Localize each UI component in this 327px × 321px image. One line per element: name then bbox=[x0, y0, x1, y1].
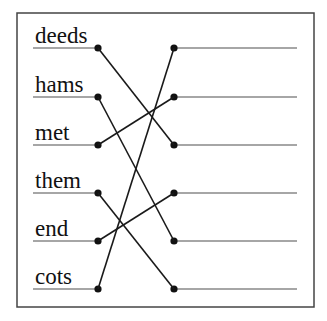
matching-diagram: deedshamsmetthemendcots bbox=[0, 0, 327, 321]
connector-line-end bbox=[98, 193, 174, 241]
connector-line-deeds bbox=[98, 48, 174, 145]
connectors bbox=[98, 48, 174, 289]
word-label-cots: cots bbox=[35, 264, 72, 289]
connector-line-met bbox=[98, 97, 174, 145]
frame-border bbox=[17, 13, 314, 307]
connector-line-them bbox=[98, 193, 174, 289]
connector-line-cots bbox=[98, 48, 174, 289]
right-column bbox=[170, 44, 297, 292]
word-label-hams: hams bbox=[35, 72, 84, 97]
word-label-deeds: deeds bbox=[35, 23, 87, 48]
word-label-met: met bbox=[35, 120, 70, 145]
word-label-them: them bbox=[35, 168, 81, 193]
left-column: deedshamsmetthemendcots bbox=[33, 23, 102, 293]
word-label-end: end bbox=[35, 216, 69, 241]
